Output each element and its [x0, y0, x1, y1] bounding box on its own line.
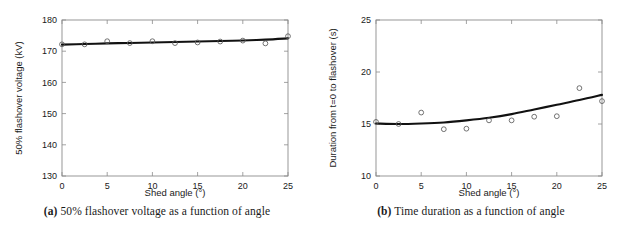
chart-b-xaxis-label: Shed angle (°)	[459, 187, 520, 198]
chart-a-svg: 0510152025130140150160170180 Shed angle …	[0, 0, 314, 200]
svg-text:20: 20	[238, 181, 248, 191]
chart-b-fit-line	[376, 95, 602, 124]
chart-a-xaxis-label: Shed angle (°)	[145, 187, 206, 198]
caption-b-label: (b)	[377, 205, 391, 217]
svg-text:20: 20	[552, 181, 562, 191]
svg-text:25: 25	[283, 181, 293, 191]
svg-text:0: 0	[373, 181, 378, 191]
panel-b: 051015202510152025 Shed angle (°) Durati…	[314, 0, 628, 243]
caption-a: (a) 50% flashover voltage as a function …	[0, 205, 314, 217]
chart-a-yaxis-label: 50% flashover voltage (kV)	[13, 41, 24, 155]
caption-b-text: Time duration as a function of angle	[394, 205, 565, 217]
chart-b-axis-frame	[376, 20, 602, 176]
chart-b-svg: 051015202510152025 Shed angle (°) Durati…	[314, 0, 628, 200]
svg-text:20: 20	[361, 67, 371, 77]
svg-text:160: 160	[42, 78, 57, 88]
chart-b-yaxis-label: Duration from t=0 to flashover (s)	[327, 28, 338, 167]
svg-text:150: 150	[42, 109, 57, 119]
figure-container: 0510152025130140150160170180 Shed angle …	[0, 0, 628, 243]
svg-text:15: 15	[361, 119, 371, 129]
svg-text:5: 5	[105, 181, 110, 191]
svg-text:170: 170	[42, 46, 57, 56]
svg-text:25: 25	[361, 15, 371, 25]
svg-text:180: 180	[42, 15, 57, 25]
svg-text:140: 140	[42, 140, 57, 150]
svg-text:0: 0	[59, 181, 64, 191]
chart-a-plot-area: 0510152025130140150160170180 Shed angle …	[0, 0, 314, 200]
chart-b-plot-area: 051015202510152025 Shed angle (°) Durati…	[314, 0, 628, 200]
svg-text:10: 10	[361, 171, 371, 181]
caption-a-text: 50% flashover voltage as a function of a…	[60, 205, 270, 217]
caption-b: (b) Time duration as a function of angle	[314, 205, 628, 217]
panel-a: 0510152025130140150160170180 Shed angle …	[0, 0, 314, 243]
chart-b-ticks	[376, 20, 602, 176]
svg-text:130: 130	[42, 171, 57, 181]
chart-a-fit-line	[62, 38, 288, 44]
svg-text:25: 25	[597, 181, 607, 191]
svg-text:5: 5	[419, 181, 424, 191]
caption-a-label: (a)	[44, 205, 58, 217]
